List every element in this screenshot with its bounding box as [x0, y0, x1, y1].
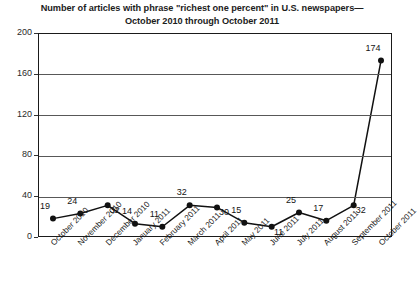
y-axis-tick-mark: [34, 237, 38, 238]
gridline: [39, 156, 391, 157]
chart-title: Number of articles with phrase "richest …: [0, 2, 404, 27]
data-point-marker: [296, 210, 302, 216]
y-axis-tick-label: 80: [0, 149, 32, 159]
gridline: [39, 74, 391, 75]
gridline: [39, 197, 391, 198]
series-line: [53, 61, 381, 227]
data-point-label: 32: [356, 205, 366, 215]
data-point-label: 32: [177, 187, 187, 197]
y-axis-tick-mark: [34, 33, 38, 34]
data-point-label: 32: [110, 205, 120, 215]
y-axis-tick-label: 40: [0, 190, 32, 200]
data-point-marker: [378, 58, 384, 64]
data-point-label: 24: [67, 196, 77, 206]
data-point-marker: [50, 216, 56, 222]
data-point-label: 19: [40, 201, 50, 211]
y-axis-tick-label: 120: [0, 109, 32, 119]
y-axis-tick-label: 0: [0, 231, 32, 241]
chart-title-line-2: October 2010 through October 2011: [0, 15, 404, 28]
y-axis-tick-mark: [34, 155, 38, 156]
y-axis-tick-mark: [34, 115, 38, 116]
line-series: [39, 34, 393, 238]
data-point-label: 11: [150, 209, 159, 219]
y-axis-tick-label: 160: [0, 68, 32, 78]
data-point-label: 17: [313, 203, 323, 213]
gridline: [39, 115, 391, 116]
data-point-label: 25: [286, 195, 296, 205]
data-point-marker: [159, 224, 165, 230]
data-point-label: 15: [231, 205, 241, 215]
chart-title-line-1: Number of articles with phrase "richest …: [0, 2, 404, 15]
data-point-label: 30: [219, 207, 229, 217]
y-axis-tick-label: 200: [0, 27, 32, 37]
data-point-label: 11: [274, 227, 283, 237]
plot-area: [38, 33, 392, 237]
y-axis-tick-mark: [34, 196, 38, 197]
data-point-label: 14: [122, 206, 132, 216]
y-axis-tick-mark: [34, 74, 38, 75]
data-point-label: 174: [365, 43, 380, 53]
